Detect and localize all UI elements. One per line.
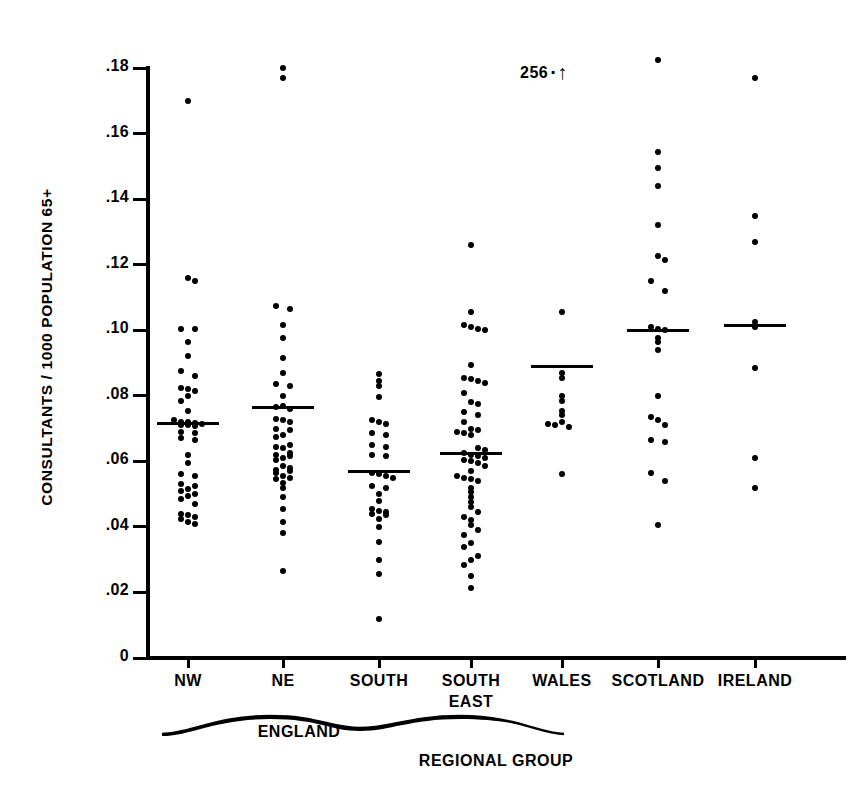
data-point — [468, 476, 474, 482]
data-point — [468, 585, 474, 591]
data-point — [273, 426, 279, 432]
x-axis-title: REGIONAL GROUP — [419, 752, 573, 770]
data-point — [287, 427, 293, 433]
group-label-line1: NW — [174, 672, 202, 689]
data-point — [482, 455, 488, 461]
data-point — [662, 257, 668, 263]
data-point — [280, 393, 286, 399]
data-point — [475, 378, 481, 384]
data-point — [376, 516, 382, 522]
data-point — [369, 511, 375, 517]
data-point — [655, 222, 661, 228]
data-point — [559, 471, 565, 477]
data-point — [655, 417, 661, 423]
data-point — [376, 557, 382, 563]
data-point — [192, 514, 198, 520]
data-point — [468, 362, 474, 368]
data-point — [461, 514, 467, 520]
data-point — [376, 491, 382, 497]
data-point — [287, 306, 293, 312]
group-label-line1: SCOTLAND — [612, 672, 705, 689]
data-point — [185, 339, 191, 345]
data-point — [475, 326, 481, 332]
data-point — [454, 473, 460, 479]
data-point — [662, 478, 668, 484]
data-point — [376, 498, 382, 504]
data-point — [376, 616, 382, 622]
data-point — [482, 327, 488, 333]
data-point — [280, 463, 286, 469]
data-point — [468, 557, 474, 563]
off-scale-annotation: 256·↑ — [520, 62, 568, 82]
data-point — [273, 303, 279, 309]
data-point — [280, 455, 286, 461]
data-point — [648, 278, 654, 284]
data-point — [655, 522, 661, 528]
data-point — [559, 309, 565, 315]
data-point — [655, 393, 661, 399]
data-point — [475, 460, 481, 466]
data-point — [655, 149, 661, 155]
data-point — [376, 508, 382, 514]
data-point — [655, 253, 661, 259]
data-point — [192, 483, 198, 489]
data-point — [178, 516, 184, 522]
group-label-line1: WALES — [532, 672, 591, 689]
data-point — [369, 430, 375, 436]
data-point — [559, 398, 565, 404]
data-point — [552, 422, 558, 428]
data-point — [192, 388, 198, 394]
data-point — [475, 401, 481, 407]
data-point — [280, 519, 286, 525]
data-point — [192, 326, 198, 332]
data-point — [280, 494, 286, 500]
data-point — [752, 365, 758, 371]
mean-line — [531, 365, 593, 368]
data-point — [468, 468, 474, 474]
data-point — [185, 408, 191, 414]
data-point — [376, 524, 382, 530]
up-arrow-icon: ·↑ — [550, 62, 568, 82]
data-point — [280, 432, 286, 438]
data-point — [468, 540, 474, 546]
data-point — [461, 544, 467, 550]
data-point — [475, 445, 481, 451]
data-point — [192, 501, 198, 507]
data-point — [185, 460, 191, 466]
data-point — [185, 353, 191, 359]
data-point — [192, 491, 198, 497]
data-point — [376, 539, 382, 545]
data-point — [559, 375, 565, 381]
data-point — [178, 385, 184, 391]
data-point — [383, 473, 389, 479]
data-point — [662, 422, 668, 428]
data-point — [468, 504, 474, 510]
data-point — [468, 324, 474, 330]
data-point — [752, 455, 758, 461]
data-point — [280, 445, 286, 451]
data-point — [185, 393, 191, 399]
data-point — [648, 414, 654, 420]
data-point — [280, 355, 286, 361]
data-point — [376, 383, 382, 389]
data-point — [662, 439, 668, 445]
group-label-line1: SOUTH — [350, 672, 409, 689]
data-point — [192, 473, 198, 479]
data-point — [178, 471, 184, 477]
data-point — [192, 521, 198, 527]
data-point — [280, 530, 286, 536]
data-point — [468, 573, 474, 579]
data-point — [192, 437, 198, 443]
data-point — [280, 322, 286, 328]
data-point — [178, 398, 184, 404]
mean-line — [348, 470, 410, 473]
data-point — [369, 442, 375, 448]
data-point — [273, 434, 279, 440]
data-point — [454, 429, 460, 435]
data-point — [273, 444, 279, 450]
data-point — [383, 512, 389, 518]
data-point — [287, 468, 293, 474]
x-group-label-nw: NW — [174, 672, 202, 690]
data-point — [383, 432, 389, 438]
data-point — [475, 412, 481, 418]
